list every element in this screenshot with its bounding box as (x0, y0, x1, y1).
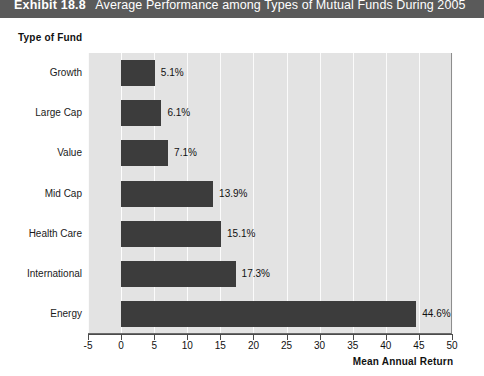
x-axis-tick-label: 5 (139, 340, 169, 351)
category-label-health-care: Health Care (0, 221, 82, 247)
gridline (88, 53, 89, 333)
bar-value[interactable] (121, 140, 168, 166)
bar-value-label: 6.1% (167, 100, 190, 126)
bar-value-label: 44.6% (422, 301, 450, 327)
x-axis-tick-label: -5 (73, 340, 103, 351)
bar-value-label: 13.9% (219, 181, 247, 207)
gridline (253, 53, 254, 333)
bar-value-label: 17.3% (242, 261, 270, 287)
x-axis-tick-label: 10 (172, 340, 202, 351)
gridline (320, 53, 321, 333)
x-axis-tick-label: 35 (338, 340, 368, 351)
x-axis-tick-label: 20 (238, 340, 268, 351)
gridline (386, 53, 387, 333)
category-label-international: International (0, 261, 82, 287)
bar-energy[interactable] (121, 301, 416, 327)
gridline (452, 53, 453, 333)
bar-value-label: 7.1% (174, 140, 197, 166)
bar-large-cap[interactable] (121, 100, 161, 126)
x-axis-tick-label: 30 (305, 340, 335, 351)
category-label-large-cap: Large Cap (0, 100, 82, 126)
category-axis-labels: GrowthLarge CapValueMid CapHealth CareIn… (0, 53, 82, 334)
x-axis-tick-label: 50 (437, 340, 467, 351)
category-label-energy: Energy (0, 301, 82, 327)
x-axis-line (88, 334, 452, 335)
x-axis-tick-label: 0 (106, 340, 136, 351)
bar-chart-figure: Type of Fund GrowthLarge CapValueMid Cap… (0, 18, 484, 376)
bar-growth[interactable] (121, 60, 155, 86)
bar-health-care[interactable] (121, 221, 221, 247)
gridline (419, 53, 420, 333)
plot-area (88, 53, 452, 334)
x-axis-tick-label: 40 (371, 340, 401, 351)
exhibit-number: Exhibit 18.8 (14, 0, 86, 12)
x-axis-tick-label: 45 (404, 340, 434, 351)
bar-international[interactable] (121, 261, 235, 287)
category-label-mid-cap: Mid Cap (0, 181, 82, 207)
exhibit-title: Average Performance among Types of Mutua… (95, 0, 465, 12)
x-axis-title: Mean Annual Return (330, 356, 476, 367)
y-axis-title: Type of Fund (18, 32, 82, 43)
exhibit-header-bar: Exhibit 18.8 Average Performance among T… (0, 0, 484, 18)
category-label-growth: Growth (0, 60, 82, 86)
x-axis-tick-label: 25 (272, 340, 302, 351)
gridline (287, 53, 288, 333)
bar-value-label: 15.1% (227, 221, 255, 247)
bar-mid-cap[interactable] (121, 181, 213, 207)
category-label-value: Value (0, 140, 82, 166)
gridline (353, 53, 354, 333)
x-axis-tick-label: 15 (205, 340, 235, 351)
bar-value-label: 5.1% (161, 60, 184, 86)
